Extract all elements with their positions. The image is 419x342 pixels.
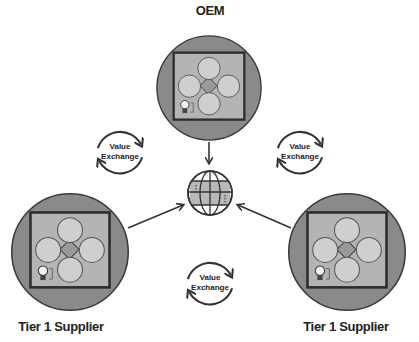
edge-left-to-globe xyxy=(128,205,183,228)
tier1-supplier-left-label: Tier 1 Supplier xyxy=(18,319,104,334)
value-exchange-line1: Value xyxy=(281,142,319,152)
value-exchange-line2: Exchange xyxy=(101,152,139,162)
value-exchange-label-right: Value Exchange xyxy=(281,142,319,162)
value-exchange-label-bottom: Value Exchange xyxy=(191,273,229,293)
tier1-supplier-left-node xyxy=(12,194,128,310)
oem-label: OEM xyxy=(196,3,225,18)
oem-node xyxy=(157,36,261,140)
value-exchange-label-left: Value Exchange xyxy=(101,142,139,162)
globe-icon xyxy=(188,171,232,215)
tier1-supplier-right-label: Tier 1 Supplier xyxy=(303,319,389,334)
tier1-supplier-right-node xyxy=(289,194,405,310)
value-exchange-line2: Exchange xyxy=(191,283,229,293)
edge-right-to-globe xyxy=(238,205,291,228)
value-exchange-line2: Exchange xyxy=(281,152,319,162)
value-exchange-line1: Value xyxy=(101,142,139,152)
value-exchange-line1: Value xyxy=(191,273,229,283)
